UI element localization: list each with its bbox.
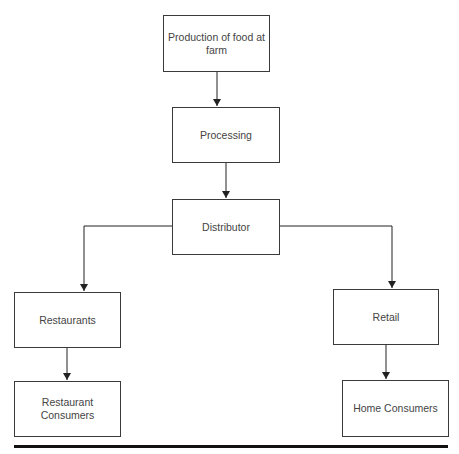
node-retail-label: Retail [373,311,400,324]
node-production-label: Production of food at farm [168,31,265,57]
arrow-distributor-to-restaurants [84,226,172,291]
node-restaurants-label: Restaurants [39,314,96,327]
node-distributor: Distributor [172,199,280,255]
node-retail: Retail [333,289,439,345]
node-home-consumers: Home Consumers [342,380,449,437]
node-restaurant-consumers-label: Restaurant Consumers [33,396,102,422]
node-home-consumers-label: Home Consumers [353,402,438,415]
bottom-rule-divider [14,445,448,448]
arrow-distributor-to-retail [279,226,392,288]
node-restaurant-consumers: Restaurant Consumers [14,381,121,437]
flowchart-canvas: Production of food at farm Processing Di… [0,0,459,454]
node-processing: Processing [172,107,280,163]
node-production: Production of food at farm [163,15,270,72]
node-distributor-label: Distributor [202,221,250,234]
node-restaurants: Restaurants [14,292,121,348]
node-processing-label: Processing [200,129,252,142]
